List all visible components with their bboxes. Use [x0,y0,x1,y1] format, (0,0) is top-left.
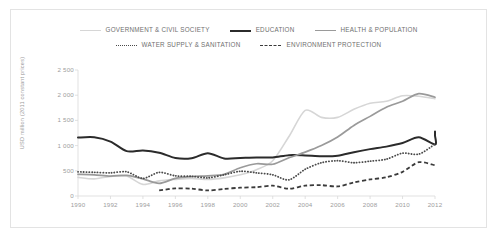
plot-area: USD million (2011 constant prices) 05001… [0,0,501,243]
series-line-government-civil-society [78,95,435,184]
chart-figure: GOVERNMENT & CIVIL SOCIETY EDUCATION HEA… [0,0,501,243]
series-line-education [78,131,436,158]
chart-svg [0,0,501,243]
series-line-water-supply-sanitation [78,144,435,180]
